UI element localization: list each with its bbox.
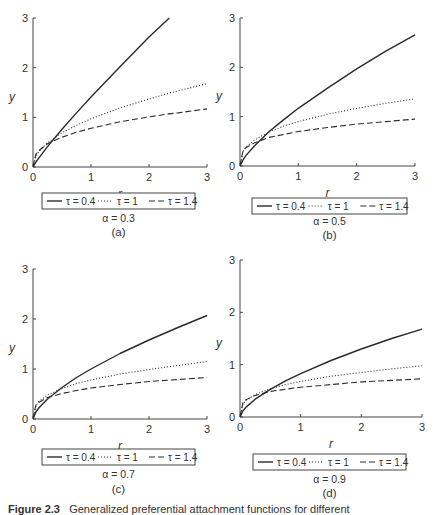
legend-label: τ = 0.4 — [277, 457, 307, 468]
legend: τ = 0.4τ = 1τ = 1.4 — [42, 449, 198, 465]
alpha-label: α = 0.5 — [313, 215, 346, 227]
x-tick-label: 2 — [146, 423, 152, 435]
x-tick-label: 2 — [146, 171, 152, 183]
y-tick-label: 2 — [22, 313, 28, 325]
y-axis-label: y — [8, 90, 16, 104]
legend-label: τ = 1.4 — [168, 452, 198, 463]
caption-text: Generalized preferential attachment func… — [69, 503, 349, 515]
legend: τ = 0.4τ = 1τ = 1.4 — [252, 198, 409, 214]
legend-label: τ = 1 — [117, 452, 138, 463]
y-tick-label: 3 — [22, 263, 28, 275]
panel-label: (c) — [112, 483, 126, 495]
y-tick-label: 2 — [22, 62, 28, 74]
series-line-dashed — [240, 119, 415, 166]
alpha-label: α = 0.9 — [313, 473, 346, 485]
y-tick-label: 3 — [229, 254, 235, 266]
x-tick-label: 0 — [237, 170, 243, 182]
y-axis-label: y — [215, 336, 223, 350]
x-tick-label: 3 — [419, 421, 425, 433]
legend-label: τ = 0.4 — [66, 196, 96, 207]
y-axis-label: y — [215, 89, 223, 103]
y-tick-label: 2 — [229, 306, 235, 318]
series-line-dotted — [33, 362, 207, 420]
y-tick-label: 0 — [22, 413, 28, 425]
y-tick-label: 1 — [229, 359, 235, 371]
legend-label: τ = 1.4 — [168, 196, 198, 207]
legend-label: τ = 1 — [328, 457, 349, 468]
figure-caption: Figure 2.3 Generalized preferential atta… — [8, 503, 350, 515]
x-axis-label: r — [329, 437, 334, 451]
y-tick-label: 0 — [229, 160, 235, 172]
panel-label: (a) — [111, 226, 125, 238]
legend-label: τ = 0.4 — [276, 201, 306, 212]
panel-label: (b) — [322, 229, 336, 241]
y-tick-label: 3 — [22, 12, 28, 24]
chart-panel-b: 01230123yrτ = 0.4τ = 1τ = 1.4α = 0.5(b) — [215, 12, 418, 241]
series-line-solid — [240, 329, 422, 417]
x-tick-label: 0 — [30, 171, 36, 183]
series-line-solid — [33, 18, 169, 167]
y-tick-label: 3 — [229, 12, 235, 24]
x-tick-label: 1 — [295, 170, 301, 182]
y-axis-label: y — [8, 341, 16, 355]
x-tick-label: 2 — [354, 170, 360, 182]
legend: τ = 0.4τ = 1τ = 1.4 — [42, 193, 198, 209]
series-line-dashed — [240, 379, 422, 417]
y-tick-label: 0 — [229, 411, 235, 423]
x-tick-label: 3 — [412, 170, 418, 182]
y-tick-label: 1 — [22, 111, 28, 123]
x-tick-label: 0 — [237, 421, 243, 433]
chart-panel-c: 01230123yrτ = 0.4τ = 1τ = 1.4α = 0.7(c) — [8, 263, 210, 495]
series-line-solid — [33, 316, 207, 420]
y-tick-label: 2 — [229, 61, 235, 73]
alpha-label: α = 0.7 — [102, 468, 135, 480]
x-tick-label: 0 — [30, 423, 36, 435]
y-tick-label: 1 — [229, 111, 235, 123]
alpha-label: α = 0.3 — [102, 212, 135, 224]
x-tick-label: 1 — [298, 421, 304, 433]
series-line-dashed — [33, 378, 207, 420]
series-line-dotted — [33, 84, 207, 167]
y-tick-label: 0 — [22, 161, 28, 173]
y-tick-label: 1 — [22, 363, 28, 375]
series-line-dotted — [240, 99, 415, 166]
chart-panel-a: 01230123yrτ = 0.4τ = 1τ = 1.4α = 0.3(a) — [8, 12, 210, 238]
chart-panel-d: 01230123yrτ = 0.4τ = 1τ = 1.4α = 0.9(d) — [215, 254, 425, 499]
legend-label: τ = 1.4 — [379, 201, 409, 212]
x-tick-label: 2 — [358, 421, 364, 433]
legend-label: τ = 1 — [117, 196, 138, 207]
legend-label: τ = 1 — [328, 201, 349, 212]
x-tick-label: 3 — [204, 423, 210, 435]
legend: τ = 0.4τ = 1τ = 1.4 — [253, 454, 409, 470]
legend-label: τ = 1.4 — [379, 457, 409, 468]
x-tick-label: 1 — [88, 423, 94, 435]
panel-label: (d) — [322, 487, 336, 499]
series-line-dashed — [33, 109, 207, 167]
legend-label: τ = 0.4 — [66, 452, 96, 463]
series-line-solid — [240, 35, 415, 166]
caption-label: Figure 2.3 — [8, 503, 60, 515]
x-tick-label: 3 — [204, 171, 210, 183]
x-tick-label: 1 — [88, 171, 94, 183]
